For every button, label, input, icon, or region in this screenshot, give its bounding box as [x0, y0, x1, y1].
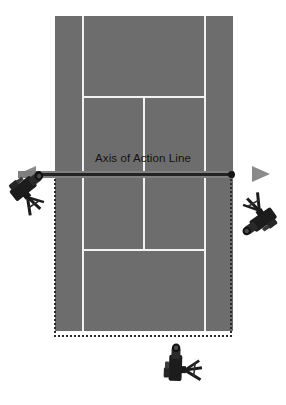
axis-of-action-line — [38, 173, 234, 176]
valid-camera-zone — [54, 176, 232, 337]
camera-icon — [232, 188, 284, 240]
arrow-head-right-icon — [252, 166, 270, 182]
axis-of-action-label: Axis of Action Line — [0, 152, 286, 164]
camera-right — [232, 188, 284, 240]
diagram-canvas: one side of the line. Axis of Action Lin… — [0, 0, 286, 405]
axis-endpoint-right-icon — [228, 171, 235, 178]
camera-left — [2, 168, 54, 218]
camera-icon — [156, 342, 206, 400]
camera-bottom — [156, 342, 206, 400]
camera-icon — [2, 168, 54, 218]
